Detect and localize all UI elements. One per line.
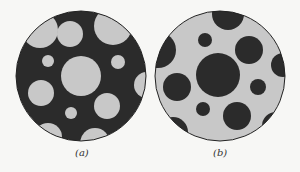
panel-a-disk-pattern	[16, 7, 160, 158]
panel-b-label: (b)	[213, 147, 227, 158]
inclusion-disk	[140, 32, 176, 68]
panel-a-label: (a)	[75, 147, 89, 158]
figure-canvas	[0, 0, 300, 172]
inclusion-disk	[196, 102, 210, 116]
inclusion-disk	[196, 53, 240, 97]
inclusion-disk	[198, 33, 212, 47]
inclusion-disk	[271, 53, 295, 77]
inclusion-disk	[163, 73, 191, 101]
inclusion-disk	[262, 112, 290, 140]
inclusion-disk	[57, 21, 83, 47]
inclusion-disk	[250, 79, 266, 95]
inclusion-disk	[223, 102, 251, 130]
inclusion-disk	[235, 36, 263, 64]
inclusion-disk	[94, 93, 120, 119]
inclusion-disk	[94, 7, 132, 45]
inclusion-disk	[28, 80, 54, 106]
inclusion-disk	[42, 55, 54, 67]
inclusion-disk	[111, 55, 125, 69]
inclusion-disk	[65, 107, 77, 119]
panel-b-disk-pattern	[140, 0, 295, 147]
inclusion-disk	[61, 56, 101, 96]
